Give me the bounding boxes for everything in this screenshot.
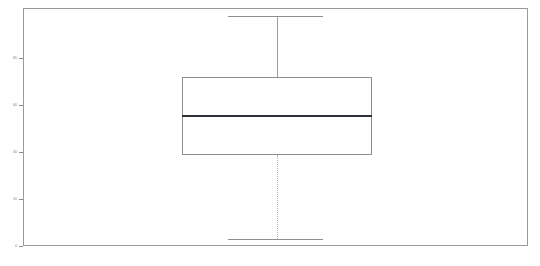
y-tick-label: 80 (13, 56, 17, 60)
y-tick-label: 60 (13, 103, 17, 107)
y-tick-label: 0 (15, 244, 17, 248)
y-tick-mark (19, 58, 23, 59)
y-axis-tick-group: 80 60 40 20 0 (0, 0, 23, 266)
y-tick-label: 20 (13, 197, 17, 201)
upper-whisker-cap (228, 16, 323, 17)
median-line (182, 115, 372, 117)
lower-whisker-line (277, 155, 279, 239)
y-tick-mark (19, 246, 23, 247)
y-tick-label: 40 (13, 150, 17, 154)
upper-whisker-line (277, 16, 278, 77)
lower-whisker-cap (228, 239, 323, 240)
y-tick-mark (19, 199, 23, 200)
y-tick-mark (19, 105, 23, 106)
y-tick-mark (19, 152, 23, 153)
box-plot-chart: 80 60 40 20 0 (0, 0, 540, 266)
